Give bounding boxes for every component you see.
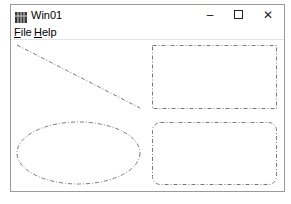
- menu-file[interactable]: File: [14, 26, 32, 39]
- shape-line: [17, 45, 140, 108]
- minimize-icon: –: [207, 8, 214, 22]
- app-grid-icon: [15, 9, 27, 20]
- client-area[interactable]: [11, 39, 284, 191]
- app-window: Win01 – ✕ File Help: [10, 4, 285, 192]
- shape-ellipse: [17, 122, 140, 184]
- menu-file-accel: F: [14, 26, 21, 38]
- menu-help-label: elp: [42, 26, 57, 38]
- maximize-button[interactable]: [224, 5, 252, 25]
- menu-help[interactable]: Help: [34, 26, 57, 39]
- shape-rectangle: [153, 46, 277, 109]
- title-bar[interactable]: Win01 – ✕: [11, 5, 284, 25]
- drawing-canvas: [11, 39, 284, 192]
- window-title: Win01: [31, 8, 62, 22]
- menu-file-label: ile: [21, 26, 32, 38]
- minimize-button[interactable]: –: [196, 5, 224, 25]
- close-icon: ✕: [263, 8, 273, 22]
- menu-bar: File Help: [11, 25, 284, 40]
- close-button[interactable]: ✕: [254, 5, 282, 25]
- shape-rounded-rectangle: [153, 123, 277, 185]
- menu-help-accel: H: [34, 26, 42, 38]
- maximize-icon: [234, 8, 243, 22]
